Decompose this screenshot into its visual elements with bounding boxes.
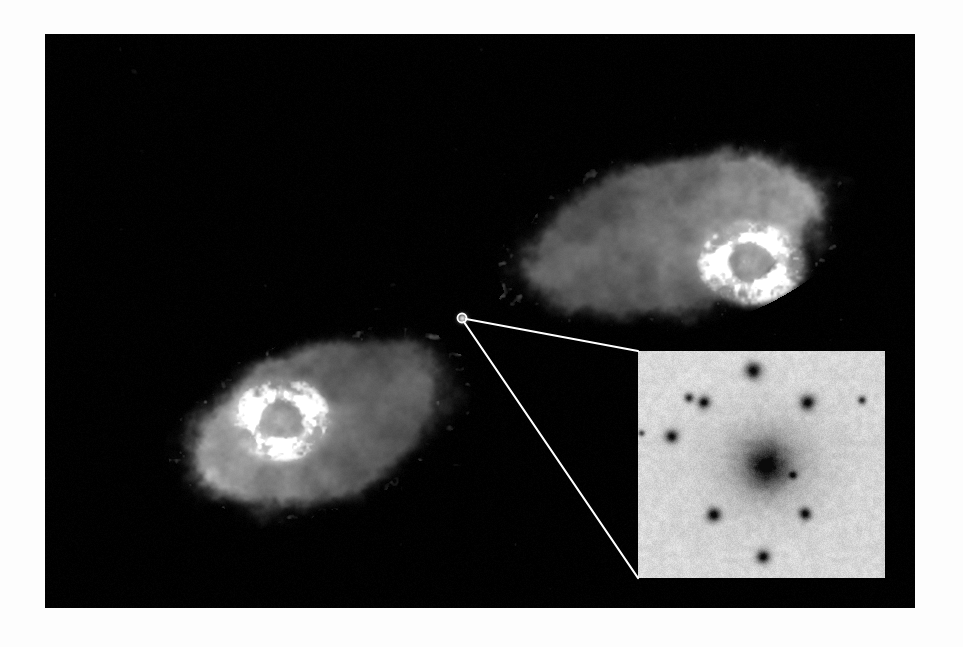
optical-inset-panel bbox=[638, 351, 885, 578]
radio-map-frame bbox=[45, 34, 915, 608]
optical-inset-image bbox=[638, 351, 885, 578]
figure-root: Greyscale radio map of a double-lobed ra… bbox=[0, 0, 963, 647]
figure-description: Greyscale radio map of a double-lobed ra… bbox=[0, 0, 1, 1]
